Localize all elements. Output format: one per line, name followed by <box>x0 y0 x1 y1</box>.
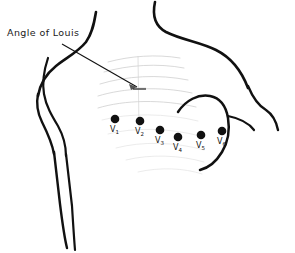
rib-line-3 <box>100 77 188 84</box>
neck-left-contour <box>38 12 96 96</box>
ecg-lead-placement-diagram: V1 V2 V3 V4 V5 V6 Angle of Loui <box>0 0 295 253</box>
electrode-dot-v3[interactable] <box>156 126 165 135</box>
angle-of-louis-label: Angle of Louis <box>7 27 79 38</box>
electrode-dot-v4[interactable] <box>174 133 183 142</box>
rib-line-2 <box>104 65 184 72</box>
rib-line-4 <box>98 89 192 96</box>
electrode-label-v1: V1 <box>110 125 119 135</box>
rib-line-10 <box>138 169 202 174</box>
electrode-label-v2: V2 <box>135 127 144 137</box>
body-outline-group <box>37 2 278 250</box>
electrode-dot-v2[interactable] <box>136 117 145 126</box>
electrode-group: V1 V2 V3 V4 V5 V6 <box>110 115 226 153</box>
neck-right-contour <box>154 2 248 88</box>
left-arm-inner-contour <box>43 58 66 156</box>
electrode-label-v6: V6 <box>217 137 226 147</box>
electrode-label-v5: V5 <box>196 141 205 151</box>
axilla-contour <box>228 116 254 130</box>
electrode-dot-v1[interactable] <box>111 115 120 124</box>
rib-line-9 <box>126 156 204 162</box>
callout-leader-line <box>62 44 137 87</box>
electrode-label-v4: V4 <box>173 143 182 153</box>
right-arm-contour <box>248 86 278 130</box>
electrode-label-v3: V3 <box>155 136 164 146</box>
rib-line-7 <box>108 129 200 136</box>
electrode-dot-v6[interactable] <box>218 127 227 136</box>
left-arm-lower-contour <box>66 154 75 250</box>
rib-line-1 <box>108 56 180 62</box>
left-arm-outer-contour <box>54 152 67 248</box>
electrode-dot-v5[interactable] <box>197 131 206 140</box>
